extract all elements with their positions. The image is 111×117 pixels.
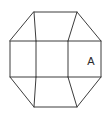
octagon-net-figure: A <box>0 0 111 117</box>
face-label-a: A <box>87 55 95 67</box>
label-group: A <box>87 55 95 67</box>
figure-container: A <box>0 0 111 117</box>
